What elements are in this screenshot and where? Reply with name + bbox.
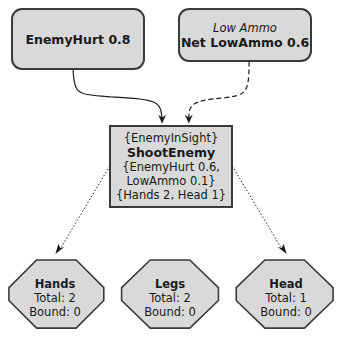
resource-head-label: Head Total: 1 Bound: 0 <box>237 263 335 332</box>
edge-shootenemy-to-hands <box>61 166 109 247</box>
arrowhead-dotted-hands <box>55 244 64 254</box>
node-subtitle: Low Ammo <box>213 21 277 35</box>
node-label: Net LowAmmo 0.6 <box>181 35 309 50</box>
resource-name: Legs <box>155 277 185 291</box>
resource-bound: Bound: 0 <box>260 305 312 319</box>
resource-bound: Bound: 0 <box>29 305 81 319</box>
edge-enemyhurt-to-shootenemy <box>73 67 162 121</box>
resource-total: Total: 1 <box>265 291 307 305</box>
action-precondition: {EnemyInSight} <box>124 131 219 145</box>
resource-name: Hands <box>35 277 76 291</box>
edge-lowammo-to-shootenemy <box>189 61 249 120</box>
input-node-enemyhurt[interactable]: EnemyHurt 0.8 <box>11 8 145 70</box>
resource-name: Head <box>269 277 302 291</box>
action-effects-line1: {EnemyHurt 0.6, <box>122 160 220 174</box>
action-node-shootenemy[interactable]: {EnemyInSight} ShootEnemy {EnemyHurt 0.6… <box>109 125 233 208</box>
edge-shootenemy-to-head <box>232 166 280 247</box>
resource-bound: Bound: 0 <box>144 305 196 319</box>
node-label: EnemyHurt 0.8 <box>25 32 130 47</box>
action-name: ShootEnemy <box>127 145 215 160</box>
action-resources: {Hands 2, Head 1} <box>116 188 226 202</box>
action-effects-line2: LowAmmo 0.1} <box>126 174 215 188</box>
input-node-lowammo[interactable]: Low Ammo Net LowAmmo 0.6 <box>178 8 312 62</box>
resource-legs-label: Legs Total: 2 Bound: 0 <box>121 263 219 332</box>
resource-hands-label: Hands Total: 2 Bound: 0 <box>7 263 103 332</box>
resource-total: Total: 2 <box>149 291 191 305</box>
resource-total: Total: 2 <box>34 291 76 305</box>
arrowhead-dotted-head <box>278 244 287 254</box>
